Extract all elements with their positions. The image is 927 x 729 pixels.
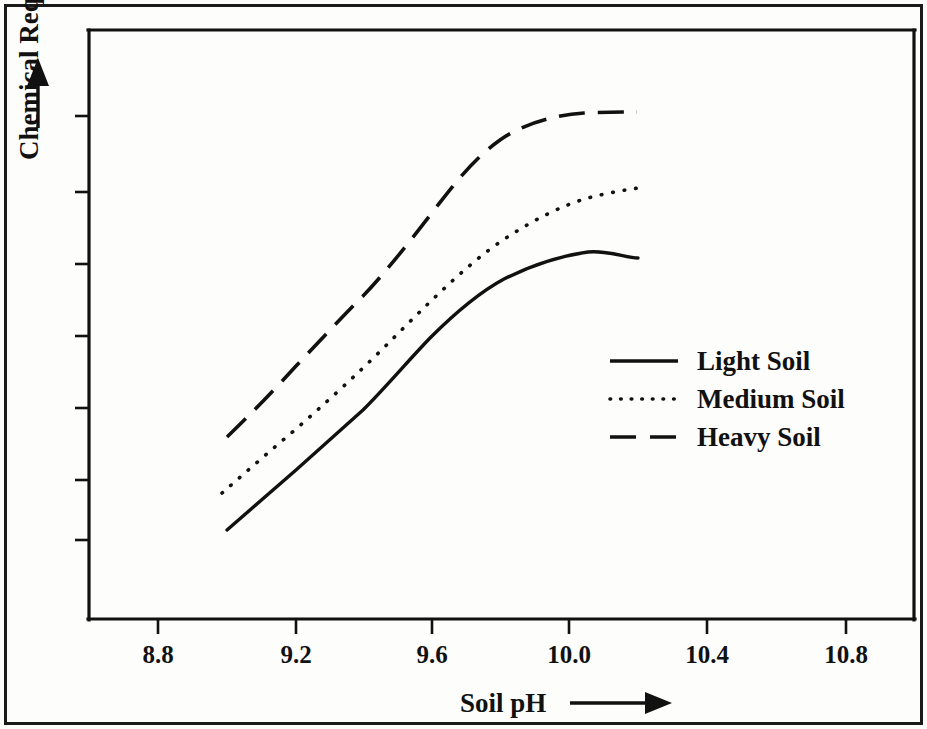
x-tick-label: 8.8 [142,641,173,668]
chart-canvas: 8.8 9.2 9.6 10.0 10.4 10.8 Light Soil Me… [0,0,927,729]
x-axis-tick-labels: 8.8 9.2 9.6 10.0 10.4 10.8 [142,641,868,668]
x-axis-title-group: Soil pH [460,688,672,718]
x-axis-title: Soil pH [460,688,546,718]
x-tick-label: 10.4 [685,641,729,668]
y-axis-title-group: Chemical Requirement [14,0,49,160]
y-axis-ticks [75,116,89,540]
legend-label-light-soil: Light Soil [697,346,811,376]
series-group [222,112,638,530]
chart-figure: 8.8 9.2 9.6 10.0 10.4 10.8 Light Soil Me… [0,0,927,729]
legend-label-heavy-soil: Heavy Soil [697,422,821,452]
x-tick-label: 9.2 [280,641,311,668]
y-axis-title: Chemical Requirement [14,0,44,160]
x-tick-label: 10.0 [547,641,591,668]
series-line-light-soil [227,252,638,530]
series-line-medium-soil [222,188,638,493]
x-axis-ticks [158,619,846,634]
plot-frame [88,30,915,620]
right-arrow-icon [570,692,672,714]
legend: Light Soil Medium Soil Heavy Soil [610,346,845,452]
legend-label-medium-soil: Medium Soil [697,384,845,414]
series-line-heavy-soil [227,112,637,437]
x-tick-label: 9.6 [416,641,447,668]
x-tick-label: 10.8 [824,641,868,668]
